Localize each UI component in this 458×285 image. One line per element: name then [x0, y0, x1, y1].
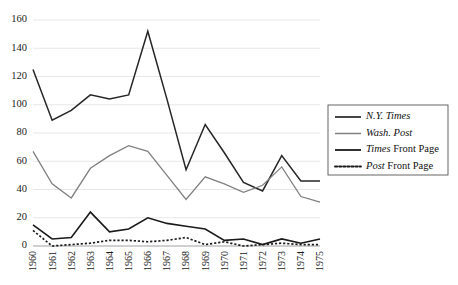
series-line: [33, 146, 320, 203]
x-axis-tick-label: 1974: [295, 251, 306, 271]
x-axis-tick-label: 1971: [238, 251, 249, 271]
x-axis-tick-label: 1962: [66, 251, 77, 271]
legend-item-label: Wash. Post: [366, 127, 413, 138]
x-axis-tick-label: 1965: [123, 251, 134, 271]
x-axis-tick-label: 1961: [47, 251, 58, 271]
x-axis-tick-label: 1966: [142, 251, 153, 271]
chart-canvas: 0204060801001201401601960196119621963196…: [0, 0, 458, 285]
x-axis-tick-label: 1964: [104, 251, 115, 271]
y-axis-tick-label: 140: [11, 42, 27, 53]
x-axis-tick-label: 1960: [27, 251, 38, 271]
x-axis-tick-label: 1967: [161, 251, 172, 271]
x-axis-tick-label: 1975: [314, 251, 325, 271]
y-axis-tick-label: 160: [11, 13, 27, 24]
y-axis-tick-label: 100: [11, 98, 27, 109]
x-axis-tick-label: 1968: [180, 251, 191, 271]
series-line: [33, 230, 320, 246]
y-gridlines: 020406080100120140160: [11, 13, 320, 250]
series-line: [33, 31, 320, 191]
x-axis-tick-label: 1970: [219, 251, 230, 271]
y-axis-tick-label: 80: [17, 126, 28, 137]
y-axis-tick-label: 120: [11, 70, 27, 81]
y-axis-tick-label: 0: [22, 239, 27, 250]
x-axis-tick-label: 1969: [200, 251, 211, 271]
line-chart: 0204060801001201401601960196119621963196…: [0, 0, 458, 285]
x-axis-tick-label: 1963: [85, 251, 96, 271]
y-axis-tick-label: 20: [17, 211, 28, 222]
y-axis-tick-label: 40: [17, 183, 28, 194]
x-axis-tick-labels: 1960196119621963196419651966196719681969…: [27, 251, 325, 271]
x-axis-tick-label: 1972: [257, 251, 268, 271]
legend-item-label: Post Front Page: [365, 160, 433, 171]
legend-item-label: N.Y. Times: [365, 110, 410, 121]
y-axis-tick-label: 60: [17, 155, 28, 166]
series-group: [33, 31, 320, 246]
legend-item-label: Times Front Page: [366, 143, 439, 154]
x-axis-tick-label: 1973: [276, 251, 287, 271]
legend: N.Y. TimesWash. PostTimes Front PagePost…: [328, 105, 448, 175]
